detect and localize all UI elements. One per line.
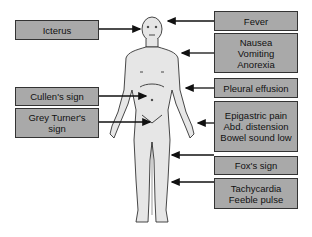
label-text: Epigastric pain — [225, 110, 287, 121]
label-text: sign — [48, 123, 65, 134]
label-text: Pleural effusion — [223, 83, 288, 94]
label-epigastric-pain-group: Epigastric pain Abd. distension Bowel so… — [214, 101, 298, 152]
label-text: Icterus — [43, 25, 72, 36]
label-text: Abd. distension — [224, 121, 289, 132]
label-fever: Fever — [214, 11, 298, 31]
label-text: Nausea — [240, 37, 273, 48]
label-text: Fever — [244, 16, 268, 27]
label-text: Anorexia — [237, 59, 275, 70]
label-cullens-sign: Cullen's sign — [15, 87, 99, 106]
label-foxs-sign: Fox's sign — [214, 156, 298, 175]
label-text: Cullen's sign — [30, 91, 84, 102]
human-body-figure — [110, 17, 194, 222]
label-text: Bowel sound low — [220, 132, 291, 143]
label-pleural-effusion: Pleural effusion — [214, 78, 298, 98]
label-text: Tachycardia — [231, 183, 282, 194]
label-text: Vomiting — [238, 48, 274, 59]
label-text: Fox's sign — [235, 160, 277, 171]
label-icterus: Icterus — [15, 20, 99, 40]
label-nausea-vomiting-anorexia: Nausea Vomiting Anorexia — [214, 33, 298, 73]
label-text: Feeble pulse — [229, 194, 283, 205]
label-text: Grey Turner's — [28, 112, 85, 123]
label-grey-turners-sign: Grey Turner's sign — [15, 108, 99, 138]
label-tachycardia-feeble-pulse: Tachycardia Feeble pulse — [214, 178, 298, 209]
